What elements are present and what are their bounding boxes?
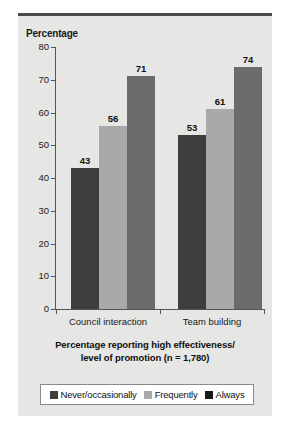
bar-value-label: 61 <box>215 96 226 107</box>
caption-line-1: Percentage reporting high effectiveness/ <box>28 338 262 351</box>
y-tick-label: 10 <box>38 270 49 281</box>
y-tick-mark <box>51 47 55 48</box>
legend-item: Always <box>205 389 245 400</box>
bar: 43 <box>71 168 99 309</box>
y-tick-mark <box>51 244 55 245</box>
y-tick-label: 70 <box>38 74 49 85</box>
y-axis-line <box>55 47 56 309</box>
bar-value-label: 71 <box>136 63 147 74</box>
bar-value-label: 56 <box>108 113 119 124</box>
x-axis-separator-tick <box>160 309 161 314</box>
x-axis-separator-tick <box>264 309 265 314</box>
bar-value-label: 74 <box>243 54 254 65</box>
y-tick-label: 60 <box>38 107 49 118</box>
bar: 61 <box>206 109 234 309</box>
legend-swatch-icon <box>50 391 58 399</box>
legend-swatch-icon <box>144 391 152 399</box>
bar: 56 <box>99 126 127 309</box>
x-axis-separator-tick <box>56 309 57 314</box>
bar: 74 <box>234 67 262 309</box>
y-tick-label: 50 <box>38 139 49 150</box>
y-tick-mark <box>51 309 55 310</box>
bar: 71 <box>127 76 155 309</box>
x-axis-group-label: Team building <box>152 316 272 327</box>
top-rule-divider <box>18 13 272 16</box>
legend-item: Never/occasionally <box>50 389 137 400</box>
legend-label: Always <box>216 389 245 400</box>
legend-swatch-icon <box>205 391 213 399</box>
y-tick-mark <box>51 113 55 114</box>
y-tick-label: 0 <box>44 303 49 314</box>
figure-container: Percentage 01020304050607080 43567153617… <box>0 0 291 427</box>
bar-value-label: 43 <box>80 155 91 166</box>
caption-line-2: level of promotion (n = 1,780) <box>28 351 262 364</box>
y-tick-mark <box>51 178 55 179</box>
plot-area: 01020304050607080 435671536174 Council i… <box>55 47 265 309</box>
bar-value-label: 53 <box>187 122 198 133</box>
legend-label: Never/occasionally <box>61 389 137 400</box>
chart-caption: Percentage reporting high effectiveness/… <box>28 338 262 364</box>
y-tick-mark <box>51 276 55 277</box>
y-axis-title: Percentage <box>26 28 78 39</box>
y-tick-label: 20 <box>38 238 49 249</box>
x-axis-group-label: Council interaction <box>48 316 168 327</box>
bar: 53 <box>178 135 206 309</box>
y-tick-label: 30 <box>38 205 49 216</box>
y-tick-mark <box>51 145 55 146</box>
y-tick-mark <box>51 80 55 81</box>
y-tick-label: 40 <box>38 172 49 183</box>
legend-item: Frequently <box>144 389 198 400</box>
y-tick-label: 80 <box>38 41 49 52</box>
y-tick-mark <box>51 211 55 212</box>
chart-legend: Never/occasionallyFrequentlyAlways <box>40 384 254 405</box>
legend-label: Frequently <box>155 389 198 400</box>
